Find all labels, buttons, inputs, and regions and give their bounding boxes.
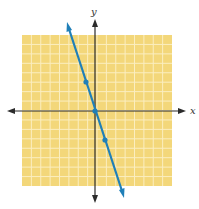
data-point	[102, 137, 107, 142]
y-axis-label: y	[90, 6, 97, 17]
y-axis-down-arrow-icon	[92, 195, 98, 203]
x-axis-left-arrow-icon	[7, 108, 15, 114]
x-axis-label: x	[190, 105, 196, 116]
coordinate-plane: x y	[0, 0, 199, 209]
data-point	[83, 79, 88, 84]
data-point	[92, 108, 97, 113]
line-arrow-up-icon	[67, 22, 73, 32]
line-arrow-down-icon	[119, 188, 125, 198]
y-axis-up-arrow-icon	[92, 19, 98, 27]
x-axis-right-arrow-icon	[178, 108, 186, 114]
